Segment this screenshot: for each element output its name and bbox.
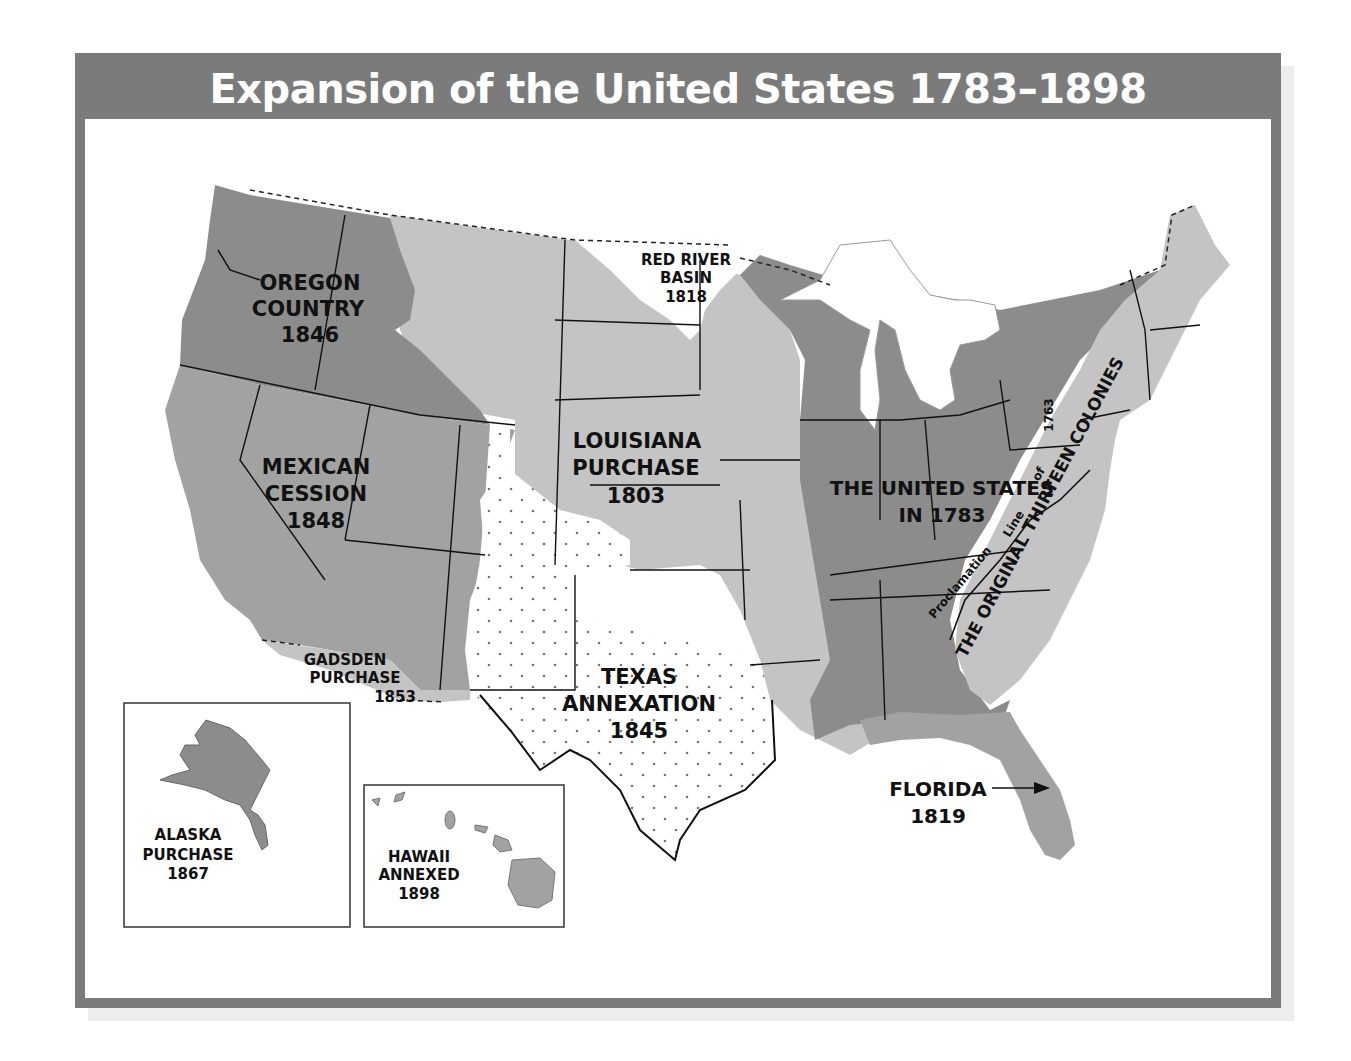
svg-text:THE UNITED STATES: THE UNITED STATES [830, 476, 1054, 500]
svg-text:1848: 1848 [287, 509, 345, 533]
svg-text:FLORIDA: FLORIDA [889, 777, 987, 801]
svg-text:CESSION: CESSION [265, 482, 367, 506]
svg-text:ANNEXED: ANNEXED [378, 866, 459, 884]
svg-text:1846: 1846 [281, 323, 339, 347]
svg-text:HAWAII: HAWAII [388, 848, 450, 866]
svg-text:GADSDEN: GADSDEN [304, 651, 386, 669]
svg-text:1819: 1819 [910, 804, 966, 828]
svg-text:1818: 1818 [665, 288, 707, 306]
svg-text:TEXAS: TEXAS [601, 665, 677, 689]
svg-text:MEXICAN: MEXICAN [262, 455, 371, 479]
svg-text:1898: 1898 [398, 885, 440, 903]
svg-text:BASIN: BASIN [660, 269, 712, 287]
svg-text:1763: 1763 [1042, 398, 1056, 431]
svg-text:PURCHASE: PURCHASE [572, 456, 699, 480]
svg-text:1845: 1845 [610, 719, 668, 743]
svg-text:RED RIVER: RED RIVER [641, 251, 731, 269]
us-expansion-map: OREGON COUNTRY 1846 MEXICAN CESSION 1848… [0, 0, 1351, 1061]
svg-text:PURCHASE: PURCHASE [310, 669, 401, 687]
svg-text:COUNTRY: COUNTRY [252, 297, 365, 321]
svg-text:ANNEXATION: ANNEXATION [562, 692, 716, 716]
svg-text:LOUISIANA: LOUISIANA [573, 429, 702, 453]
svg-text:OREGON: OREGON [259, 271, 360, 295]
svg-text:PURCHASE: PURCHASE [143, 846, 234, 864]
svg-text:1803: 1803 [607, 484, 665, 508]
svg-text:1867: 1867 [167, 865, 209, 883]
label-florida: FLORIDA 1819 [889, 777, 987, 828]
svg-text:ALASKA: ALASKA [155, 826, 222, 844]
svg-text:1853: 1853 [374, 688, 416, 706]
svg-text:IN 1783: IN 1783 [899, 503, 986, 527]
